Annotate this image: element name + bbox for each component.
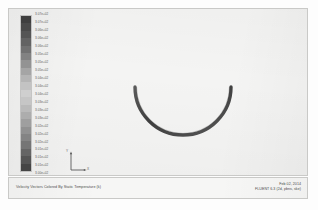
scanned-page: 3.07e+023.07e+023.06e+023.06e+023.06e+02… <box>0 0 318 210</box>
footer-title: Velocity Vectors Colored By Static Tempe… <box>16 185 101 190</box>
axis-y-arrow <box>70 151 72 154</box>
footer-meta: Feb 02, 2014 FLUENT 6.3 (2d, pbns, ske) <box>255 182 301 192</box>
duct-wall-shading <box>137 87 230 133</box>
footer-solver: FLUENT 6.3 (2d, pbns, ske) <box>255 187 301 192</box>
axis-x-label: X <box>87 167 89 171</box>
plot-footer: Velocity Vectors Colored By Static Tempe… <box>8 177 308 199</box>
axis-triad: Y X <box>65 149 91 175</box>
duct-geometry <box>9 9 308 176</box>
plot-frame: 3.07e+023.07e+023.06e+023.06e+023.06e+02… <box>8 8 308 176</box>
duct-wall-path <box>135 87 231 135</box>
axis-y-label: Y <box>66 149 68 153</box>
